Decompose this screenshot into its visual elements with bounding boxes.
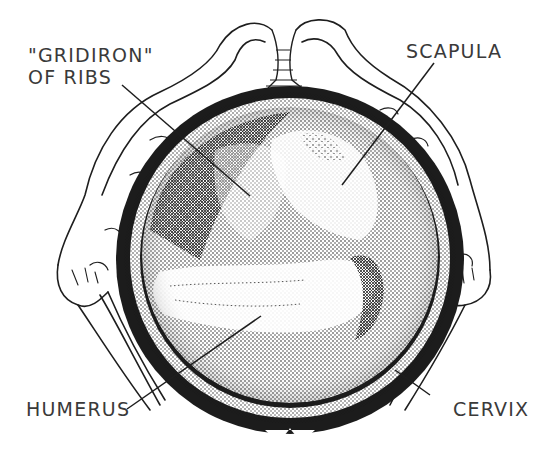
label-gridiron-line2: OF RIBS (28, 66, 154, 88)
pubic-symphysis (266, 30, 302, 88)
label-gridiron-of-ribs: "GRIDIRON" OF RIBS (28, 44, 154, 88)
fetal-presenting-part (142, 107, 438, 403)
label-cervix: CERVIX (453, 398, 529, 420)
label-scapula: SCAPULA (406, 40, 502, 62)
label-gridiron-line1: "GRIDIRON" (28, 44, 154, 66)
label-humerus: HUMERUS (26, 398, 130, 420)
